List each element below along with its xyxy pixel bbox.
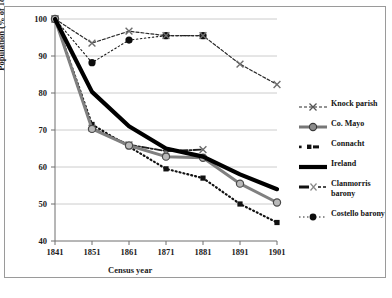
legend-label: Knock parish xyxy=(331,99,392,109)
legend-item-knock-parish: Knock parish xyxy=(298,100,390,120)
legend-label: Ireland xyxy=(331,159,392,169)
legend-item-ireland: Ireland xyxy=(298,160,390,180)
legend-marker-clanmorris-barony xyxy=(298,180,328,194)
x-tick-label: 1901 xyxy=(257,247,297,257)
legend-label: Connacht xyxy=(331,139,392,149)
data-point xyxy=(237,61,244,68)
x-tick-label: 1861 xyxy=(109,247,149,257)
y-tick-label: 90 xyxy=(21,51,47,61)
data-point xyxy=(125,36,132,43)
data-point xyxy=(163,166,168,171)
legend-marker-co-mayo xyxy=(298,120,328,134)
data-point xyxy=(236,180,243,187)
legend-label: Co. Mayo xyxy=(331,119,392,129)
legend-marker-connacht xyxy=(298,140,328,154)
x-tick-label: 1871 xyxy=(146,247,186,257)
y-tick-label: 80 xyxy=(21,88,47,98)
y-tick-label: 60 xyxy=(21,162,47,172)
legend-item-connacht: Connacht xyxy=(298,140,390,160)
data-point xyxy=(88,59,95,66)
legend-marker-ireland xyxy=(298,160,328,174)
legend-marker-knock-parish xyxy=(298,100,328,114)
x-tick-label: 1891 xyxy=(220,247,260,257)
series-line-knock-parish xyxy=(55,19,277,84)
y-tick-label: 50 xyxy=(21,199,47,209)
data-point xyxy=(162,153,169,160)
y-tick-label: 70 xyxy=(21,125,47,135)
legend-label: Clanmorris barony xyxy=(331,179,392,199)
data-point xyxy=(237,201,242,206)
data-point xyxy=(273,199,280,206)
legend-item-costello-barony: Costello barony xyxy=(298,210,390,230)
y-tick-label: 40 xyxy=(21,236,47,246)
chart-legend: Knock parish Co. Mayo Connacht Ireland xyxy=(298,100,390,230)
legend-item-clanmorris-barony: Clanmorris barony xyxy=(298,180,390,210)
data-point xyxy=(274,220,279,225)
data-point xyxy=(88,125,95,132)
chart-root: Population (% of 1841 number) Census yea… xyxy=(0,0,392,298)
x-tick-label: 1851 xyxy=(72,247,112,257)
data-point xyxy=(125,142,132,149)
x-tick-label: 1841 xyxy=(35,247,75,257)
data-point xyxy=(200,176,205,181)
legend-label: Costello barony xyxy=(331,209,392,219)
series-line-ireland xyxy=(55,19,277,189)
data-point xyxy=(274,81,281,88)
legend-item-co-mayo: Co. Mayo xyxy=(298,120,390,140)
data-point xyxy=(89,40,96,47)
legend-marker-costello-barony xyxy=(298,210,328,224)
y-tick-label: 100 xyxy=(21,14,47,24)
x-tick-label: 1881 xyxy=(183,247,223,257)
